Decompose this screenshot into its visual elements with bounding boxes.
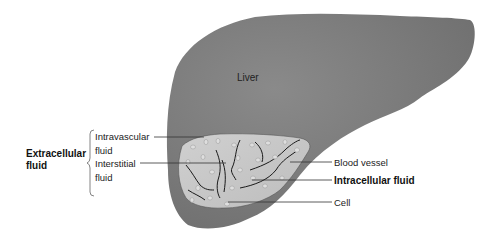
liver-diagram [0, 0, 499, 252]
intravascular-fluid-label-line1: Intravascular [95, 131, 149, 142]
interstitial-fluid-label-line2: fluid [95, 172, 112, 183]
intracellular-fluid-label: Intracellular fluid [334, 175, 415, 186]
extracellular-bracket [87, 130, 94, 196]
liver-label: Liver [237, 72, 259, 83]
interstitial-fluid-label-line1: Interstitial [95, 158, 136, 169]
extracellular-fluid-label-line1: Extracellular [26, 148, 86, 159]
extracellular-fluid-label-line2: fluid [26, 160, 47, 171]
cell-label: Cell [334, 197, 350, 208]
blood-vessel-label: Blood vessel [334, 157, 388, 168]
intravascular-fluid-label-line2: fluid [95, 145, 112, 156]
